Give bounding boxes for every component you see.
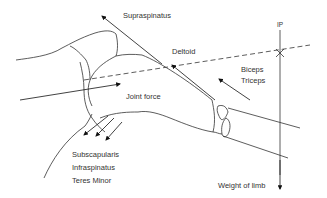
- label-supraspinatus: Supraspinatus: [123, 12, 171, 20]
- label-biceps: Biceps: [241, 66, 264, 74]
- deltoid-arrow: [172, 65, 215, 100]
- label-teres-minor: Teres Minor: [72, 177, 111, 185]
- joint-force-arrow: [20, 84, 120, 100]
- humerus-lower-edge: [100, 111, 213, 132]
- label-weight-of-limb: Weight of limb: [218, 182, 265, 190]
- supraspinatus-arrow: [102, 16, 162, 64]
- elbow-joint-upper: [217, 105, 228, 119]
- infraspinatus-arrow: [96, 118, 114, 136]
- elbow-joint-lower: [222, 118, 230, 137]
- acromion-outline: [16, 31, 118, 60]
- label-triceps: Triceps: [241, 77, 265, 85]
- forearm-connector: [213, 132, 222, 134]
- ip-dashed-line: [84, 45, 310, 80]
- humerus-end: [212, 100, 215, 132]
- forearm-lower-edge: [223, 136, 288, 158]
- label-ip: IP: [277, 22, 283, 29]
- teres-minor-arrow: [106, 122, 122, 140]
- shoulder-force-diagram: [0, 0, 327, 198]
- label-infraspinatus: Infraspinatus: [72, 164, 115, 172]
- humerus-head: [88, 56, 116, 106]
- label-joint-force: Joint force: [126, 93, 161, 101]
- label-subscapularis: Subscapularis: [72, 151, 119, 159]
- subscapularis-arrow: [84, 116, 108, 135]
- forearm-upper-edge: [228, 108, 300, 128]
- label-deltoid: Deltoid: [172, 48, 195, 56]
